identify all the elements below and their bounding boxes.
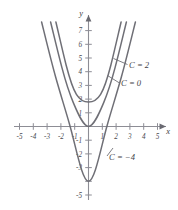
curve-label-c-0: C = 0 [121,78,142,88]
y-tick-label-4: 4 [78,68,82,76]
y-tick-label-6: 6 [78,41,82,49]
x-axis-label: x [165,127,170,136]
x-tick-label--5: -5 [17,133,23,141]
x-tick-label-4: 4 [142,133,146,141]
leader-line-c-0 [108,76,120,84]
y-tick-label--1: -1 [76,137,82,145]
y-tick-label-3: 3 [77,82,82,90]
x-tick-label--2: -2 [58,133,64,141]
y-axis-arrow-icon [86,15,92,22]
x-tick-label-2: 2 [114,133,118,141]
x-axis-arrow-icon [160,124,167,130]
x-tick-label--3: -3 [44,133,50,141]
plot-canvas: -5 -4 -3 -2 -1 1 2 3 4 5 7 [0,0,178,210]
axes-group [14,15,166,200]
y-tick-label-7: 7 [78,27,82,35]
y-tick-label-5: 5 [78,55,82,63]
x-tick-label--4: -4 [30,133,36,141]
y-tick-label--5: -5 [76,192,82,200]
y-axis-label: y [78,9,83,18]
curve-label-c-2: C = 2 [129,60,150,70]
parabola-family-figure: -5 -4 -3 -2 -1 1 2 3 4 5 7 [0,0,178,210]
curve-label-c-minus-4: C = −4 [109,152,136,162]
y-tick-labels: 7 6 5 4 3 2 1 -1 -2 -3 -5 [76,27,82,200]
x-tick-label-5: 5 [156,133,160,141]
x-tick-label-3: 3 [127,133,132,141]
